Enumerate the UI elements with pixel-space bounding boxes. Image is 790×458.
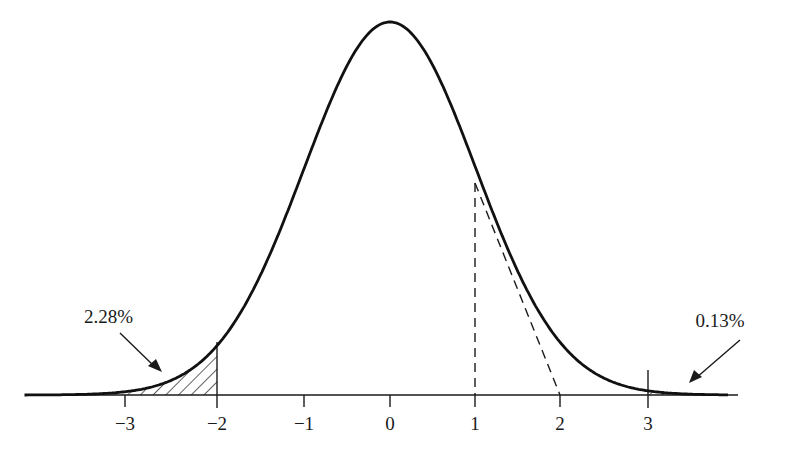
right-tail-arrow-shaft: [696, 340, 740, 378]
tick-label-3: 3: [643, 413, 653, 434]
right-tail-percent-label: 0.13%: [695, 310, 744, 331]
tick-label-0: 0: [385, 413, 395, 434]
normal-curve: [25, 22, 729, 395]
tick-label-neg3: −3: [115, 413, 135, 434]
left-tail-arrow-shaft: [120, 333, 155, 367]
tick-label-2: 2: [555, 413, 565, 434]
tick-label-neg2: −2: [207, 413, 227, 434]
tick-label-1: 1: [470, 413, 480, 434]
tick-label-neg1: −1: [294, 413, 314, 434]
right-tail-arrowhead-icon: [689, 370, 702, 383]
tangent-dashed-line: [475, 183, 560, 395]
x-axis-tick-labels: −3 −2 −1 0 1 2 3: [115, 413, 653, 434]
left-tail-arrowhead-icon: [148, 359, 162, 372]
normal-distribution-figure: −3 −2 −1 0 1 2 3 2.28% 0.13%: [0, 0, 790, 458]
x-axis-ticks: [125, 395, 560, 407]
left-tail-percent-label: 2.28%: [84, 306, 133, 327]
